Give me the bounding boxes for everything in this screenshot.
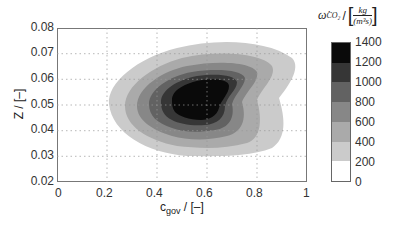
y-axis-label: Z / [–] [12, 89, 26, 120]
x-label-sub: gov [166, 206, 181, 216]
colorbar-band-400-600 [332, 122, 350, 142]
colorbar-unit-num: kg [358, 5, 367, 15]
colorbar-tick: 0 [355, 175, 362, 189]
x-label-unit: / [–] [181, 200, 204, 214]
colorbar-tick: 600 [355, 115, 375, 129]
x-tick: 0.2 [96, 186, 113, 200]
y-tick: 0.02 [31, 174, 54, 188]
x-tick: 0.4 [146, 186, 163, 200]
x-tick: 0.6 [196, 186, 213, 200]
colorbar-tick: 200 [355, 155, 375, 169]
colorbar [331, 42, 351, 182]
y-tick: 0.07 [31, 45, 54, 59]
plot-area [57, 28, 307, 182]
colorbar-band-800-1000 [332, 82, 350, 102]
colorbar-tick: 1200 [355, 55, 382, 69]
contour-plot [57, 28, 307, 182]
colorbar-band-1000-1200 [332, 63, 350, 83]
y-tick: 0.05 [31, 97, 54, 111]
colorbar-subscript: CO₂ [326, 11, 340, 20]
colorbar-band-600-800 [332, 102, 350, 122]
y-tick: 0.04 [31, 122, 54, 136]
colorbar-unit-fraction: kg (m³s) [353, 5, 372, 26]
colorbar-band-1200-1400 [332, 43, 350, 63]
colorbar-symbol: ω̇ [318, 8, 326, 23]
colorbar-title: ω̇CO₂ / [ kg (m³s) ] [318, 4, 378, 27]
x-tick: 1 [303, 186, 310, 200]
colorbar-unit-den: (m³s) [353, 15, 372, 26]
colorbar-band-0-200 [332, 161, 350, 181]
colorbar-tick: 1000 [355, 75, 382, 89]
colorbar-tick: 1400 [355, 35, 382, 49]
x-tick: 0 [55, 186, 62, 200]
y-tick: 0.08 [31, 20, 54, 34]
colorbar-tick: 800 [355, 95, 375, 109]
x-tick: 0.8 [246, 186, 263, 200]
x-axis-label: cgov / [–] [160, 200, 204, 216]
y-tick: 0.03 [31, 148, 54, 162]
colorbar-tick: 400 [355, 135, 375, 149]
y-tick: 0.06 [31, 71, 54, 85]
colorbar-band-200-400 [332, 142, 350, 162]
